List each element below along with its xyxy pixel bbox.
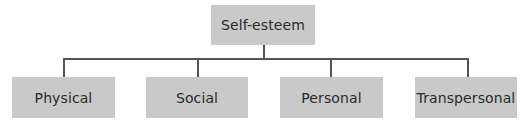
- connector-social: [197, 58, 199, 77]
- connector-transpersonal: [467, 58, 469, 77]
- child-node-label: Personal: [301, 90, 361, 106]
- child-node-physical: Physical: [12, 77, 115, 118]
- child-node-label: Physical: [35, 90, 93, 106]
- child-node-transpersonal: Transpersonal: [415, 77, 517, 118]
- child-node-personal: Personal: [280, 77, 383, 118]
- connector-personal: [330, 58, 332, 77]
- horizontal-connector: [63, 58, 469, 60]
- connector-physical: [63, 58, 65, 77]
- root-node-label: Self-esteem: [221, 17, 305, 33]
- child-node-social: Social: [146, 77, 248, 118]
- root-node-self-esteem: Self-esteem: [211, 5, 315, 45]
- child-node-label: Transpersonal: [417, 90, 516, 106]
- child-node-label: Social: [176, 90, 218, 106]
